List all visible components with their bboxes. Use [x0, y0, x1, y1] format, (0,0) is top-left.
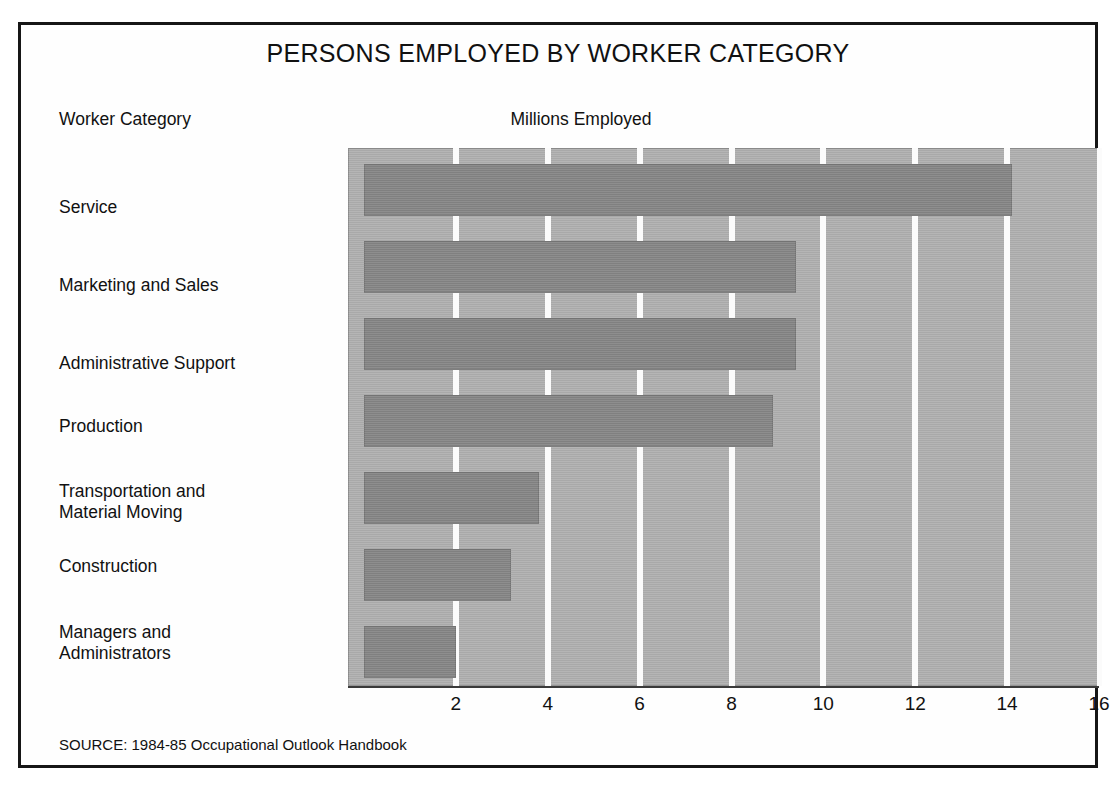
category-label-transportation: Transportation and Material Moving [59, 481, 205, 523]
x-axis-line [348, 686, 1099, 688]
gridline-14 [1004, 148, 1010, 686]
bar-transportation [364, 472, 539, 524]
category-label-service: Service [59, 197, 117, 218]
bar-administrative [364, 318, 796, 370]
bar-marketing [364, 241, 796, 293]
category-axis-header: Worker Category [59, 109, 191, 130]
tick-label-8: 8 [726, 693, 737, 715]
tick-label-14: 14 [997, 693, 1018, 715]
bar-production [364, 395, 773, 447]
tick-label-10: 10 [813, 693, 834, 715]
category-label-managers: Managers and Administrators [59, 622, 171, 664]
bar-service [364, 164, 1012, 216]
gridline-12 [912, 148, 918, 686]
tick-label-16: 16 [1088, 693, 1109, 715]
category-labels: Service Marketing and Sales Administrati… [59, 135, 349, 695]
gridline-10 [820, 148, 826, 686]
chart-title: PERSONS EMPLOYED BY WORKER CATEGORY [21, 39, 1095, 68]
tick-label-4: 4 [542, 693, 553, 715]
tick-label-2: 2 [451, 693, 462, 715]
bar-construction [364, 549, 511, 601]
category-label-administrative: Administrative Support [59, 353, 235, 374]
value-axis-header: Millions Employed [351, 109, 811, 130]
tick-label-6: 6 [634, 693, 645, 715]
category-label-marketing: Marketing and Sales [59, 275, 219, 296]
category-label-construction: Construction [59, 556, 157, 577]
bar-managers [364, 626, 456, 678]
source-note: SOURCE: 1984-85 Occupational Outlook Han… [59, 736, 407, 753]
category-label-production: Production [59, 416, 143, 437]
chart-figure: PERSONS EMPLOYED BY WORKER CATEGORY Work… [18, 22, 1098, 768]
tick-label-12: 12 [905, 693, 926, 715]
gridline-16 [1097, 148, 1102, 686]
plot-area [348, 148, 1099, 686]
